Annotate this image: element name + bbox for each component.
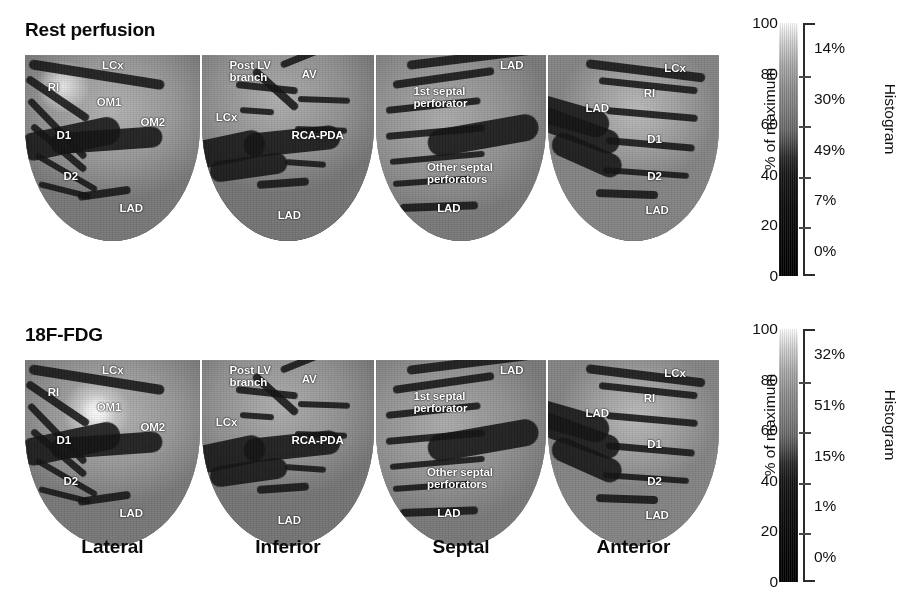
colorbar-rest-perfusion: % of maximum10080604020014%30%49%7%0%His… <box>722 14 883 276</box>
colorbar-18f-fdg: % of maximum10080604020032%51%15%1%0%His… <box>722 320 883 582</box>
vessel-label: LAD <box>645 509 668 521</box>
histogram-bin-value: 14% <box>814 40 845 55</box>
vessel-label: LAD <box>278 209 301 221</box>
vessel-label: Other septal perforators <box>427 466 493 490</box>
vessel-label: OM1 <box>97 96 122 108</box>
vessel-label: Post LV branch <box>230 59 271 83</box>
histogram-bin-value: 15% <box>814 448 845 463</box>
vessel-label: D2 <box>64 475 79 487</box>
colorbar-tick-labels: 100806040200 <box>730 14 778 276</box>
vessel-label: RI <box>48 386 59 398</box>
vessel-label: D1 <box>647 438 662 450</box>
vessel-label: LAD <box>586 407 609 419</box>
colorbar-scanline-texture <box>779 23 798 276</box>
histogram-bin-value: 49% <box>814 142 845 157</box>
view-name-inferior: Inferior <box>202 536 374 558</box>
vessel-label: LCx <box>102 59 123 71</box>
histogram-bin-tick <box>799 177 811 179</box>
colorbar-tick-label: 40 <box>730 473 778 488</box>
colorbar-tick-label: 60 <box>730 116 778 131</box>
view-name-lateral: Lateral <box>25 536 200 558</box>
histogram-bin-tick <box>799 533 811 535</box>
vessel-label: LAD <box>120 507 143 519</box>
vessel-label: LCx <box>664 367 685 379</box>
vessel-label: OM1 <box>97 401 122 413</box>
grayscale-colorbar <box>779 23 798 276</box>
polar-map-fdg-lateral: LCxRIOM1OM2D1D2LAD <box>25 360 200 546</box>
polar-map-fdg-anterior: LCxRILADD1D2LAD <box>548 360 719 546</box>
vessel-label: D1 <box>57 434 72 446</box>
colorbar-tick-label: 80 <box>730 66 778 81</box>
view-name-septal: Septal <box>376 536 546 558</box>
vessel-label: D1 <box>57 129 72 141</box>
colorbar-scanline-texture <box>779 329 798 582</box>
vessel-label: RI <box>644 392 655 404</box>
vessel-label: D2 <box>647 170 662 182</box>
vessel-label: LAD <box>120 202 143 214</box>
scanline-texture <box>376 360 546 546</box>
vessel-label: RI <box>48 81 59 93</box>
colorbar-tick-label: 60 <box>730 422 778 437</box>
colorbar-tick-label: 40 <box>730 167 778 182</box>
vessel-label: LAD <box>645 204 668 216</box>
polar-map-surface <box>376 55 546 241</box>
vessel-label: RI <box>644 87 655 99</box>
histogram-bin-value: 0% <box>814 243 836 258</box>
histogram-bin-tick <box>799 382 811 384</box>
histogram-bin-value: 32% <box>814 346 845 361</box>
vessel-label: D2 <box>64 170 79 182</box>
histogram-bin-labels: 14%30%49%7%0% <box>814 23 876 276</box>
scanline-texture <box>548 360 719 546</box>
vessel-label: LAD <box>500 59 523 71</box>
colorbar-tick-label: 0 <box>730 268 778 283</box>
polar-map-rest-septal: LAD1st septal perforatorOther septal per… <box>376 55 546 241</box>
histogram-bin-tick <box>799 483 811 485</box>
vessel-label: D1 <box>647 133 662 145</box>
histogram-bin-tick <box>799 432 811 434</box>
polar-map-surface <box>548 55 719 241</box>
vessel-label: AV <box>302 373 317 385</box>
histogram-bin-value: 7% <box>814 192 836 207</box>
colorbar-tick-label: 100 <box>730 15 778 30</box>
vessel-label: LAD <box>437 202 460 214</box>
row-title-rest-perfusion: Rest perfusion <box>25 19 155 41</box>
polar-map-rest-lateral: LCxRIOM1OM2D1D2LAD <box>25 55 200 241</box>
polar-map-fdg-septal: LAD1st septal perforatorOther septal per… <box>376 360 546 546</box>
histogram-bin-value: 51% <box>814 397 845 412</box>
vessel-label: 1st septal perforator <box>413 390 467 414</box>
polar-map-fdg-inferior: Post LV branchAVLCxRCA-PDALAD <box>202 360 374 546</box>
vessel-label: LCx <box>216 416 237 428</box>
vessel-label: LAD <box>500 364 523 376</box>
colorbar-tick-label: 20 <box>730 217 778 232</box>
colorbar-tick-label: 100 <box>730 321 778 336</box>
histogram-bin-tick <box>799 76 811 78</box>
grayscale-colorbar <box>779 329 798 582</box>
vessel-label: OM2 <box>141 116 166 128</box>
vessel-label: AV <box>302 68 317 80</box>
polar-map-row-fdg: LCxRIOM1OM2D1D2LADPost LV branchAVLCxRCA… <box>25 360 719 546</box>
polar-map-rest-inferior: Post LV branchAVLCxRCA-PDALAD <box>202 55 374 241</box>
colorbar-tick-label: 0 <box>730 574 778 589</box>
polar-map-surface <box>376 360 546 546</box>
polar-map-rest-anterior: LCxRILADD1D2LAD <box>548 55 719 241</box>
vessel-label: 1st septal perforator <box>413 85 467 109</box>
row-title-18f-fdg: 18F-FDG <box>25 324 103 346</box>
histogram-title: Histogram <box>881 59 899 179</box>
vessel-label: LAD <box>437 507 460 519</box>
histogram-bin-value: 1% <box>814 498 836 513</box>
vessel-label: LAD <box>586 102 609 114</box>
vessel-label: LCx <box>664 62 685 74</box>
histogram-bin-tick <box>799 227 811 229</box>
vessel-label: Other septal perforators <box>427 161 493 185</box>
vessel-label: RCA-PDA <box>291 434 343 446</box>
vessel-label: LCx <box>216 111 237 123</box>
histogram-bin-value: 0% <box>814 549 836 564</box>
vessel-label: LCx <box>102 364 123 376</box>
view-name-anterior: Anterior <box>548 536 719 558</box>
colorbar-tick-labels: 100806040200 <box>730 320 778 582</box>
histogram-bin-tick <box>799 126 811 128</box>
colorbar-tick-label: 80 <box>730 372 778 387</box>
vessel-label: LAD <box>278 514 301 526</box>
scanline-texture <box>548 55 719 241</box>
